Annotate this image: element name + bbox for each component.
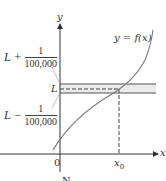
x0-label: x0 [114, 158, 124, 171]
caption-partial: N [62, 176, 71, 181]
upper-bound-fraction: 1 100,000 [25, 46, 58, 69]
upper-bound-denominator: 100,000 [25, 57, 58, 69]
lower-bound-label: L − 1 100,000 [4, 104, 57, 127]
x0-subscript: 0 [120, 163, 124, 171]
lower-bound-prefix: L − [4, 108, 22, 123]
upper-bound-label: L + 1 100,000 [4, 46, 57, 69]
curve-label: y = f(x) [114, 33, 152, 43]
origin-label: 0 [54, 158, 60, 168]
y-axis-label: y [57, 12, 63, 22]
limit-epsilon-diagram: y x 0 y = f(x) L L + 1 100,000 L − 1 100… [0, 0, 166, 181]
lower-bound-numerator: 1 [25, 104, 58, 115]
upper-leader [52, 67, 60, 84]
x-axis-label: x [160, 148, 166, 158]
limit-label: L [51, 84, 58, 94]
upper-bound-prefix: L + [4, 50, 22, 65]
lower-bound-fraction: 1 100,000 [25, 104, 58, 127]
lower-bound-denominator: 100,000 [25, 115, 58, 127]
diagram-canvas [0, 0, 166, 181]
upper-bound-numerator: 1 [25, 46, 58, 57]
